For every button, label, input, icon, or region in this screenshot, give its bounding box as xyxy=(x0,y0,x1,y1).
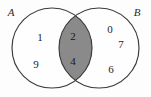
venn-diagram-canvas: A B 1 9 2 4 0 7 6 xyxy=(0,0,151,97)
element-right-only-0: 0 xyxy=(107,23,113,35)
element-right-only-7: 7 xyxy=(118,38,124,50)
set-a-label: A xyxy=(7,6,15,18)
element-intersection-2: 2 xyxy=(70,30,76,42)
venn-diagram-figure: A B 1 9 2 4 0 7 6 xyxy=(0,0,151,97)
set-b-label: B xyxy=(134,6,141,18)
element-left-only-1: 1 xyxy=(37,31,43,43)
element-intersection-4: 4 xyxy=(70,55,76,67)
set-b-circle-outline xyxy=(59,8,139,88)
element-right-only-6: 6 xyxy=(108,63,114,75)
element-left-only-9: 9 xyxy=(33,58,39,70)
